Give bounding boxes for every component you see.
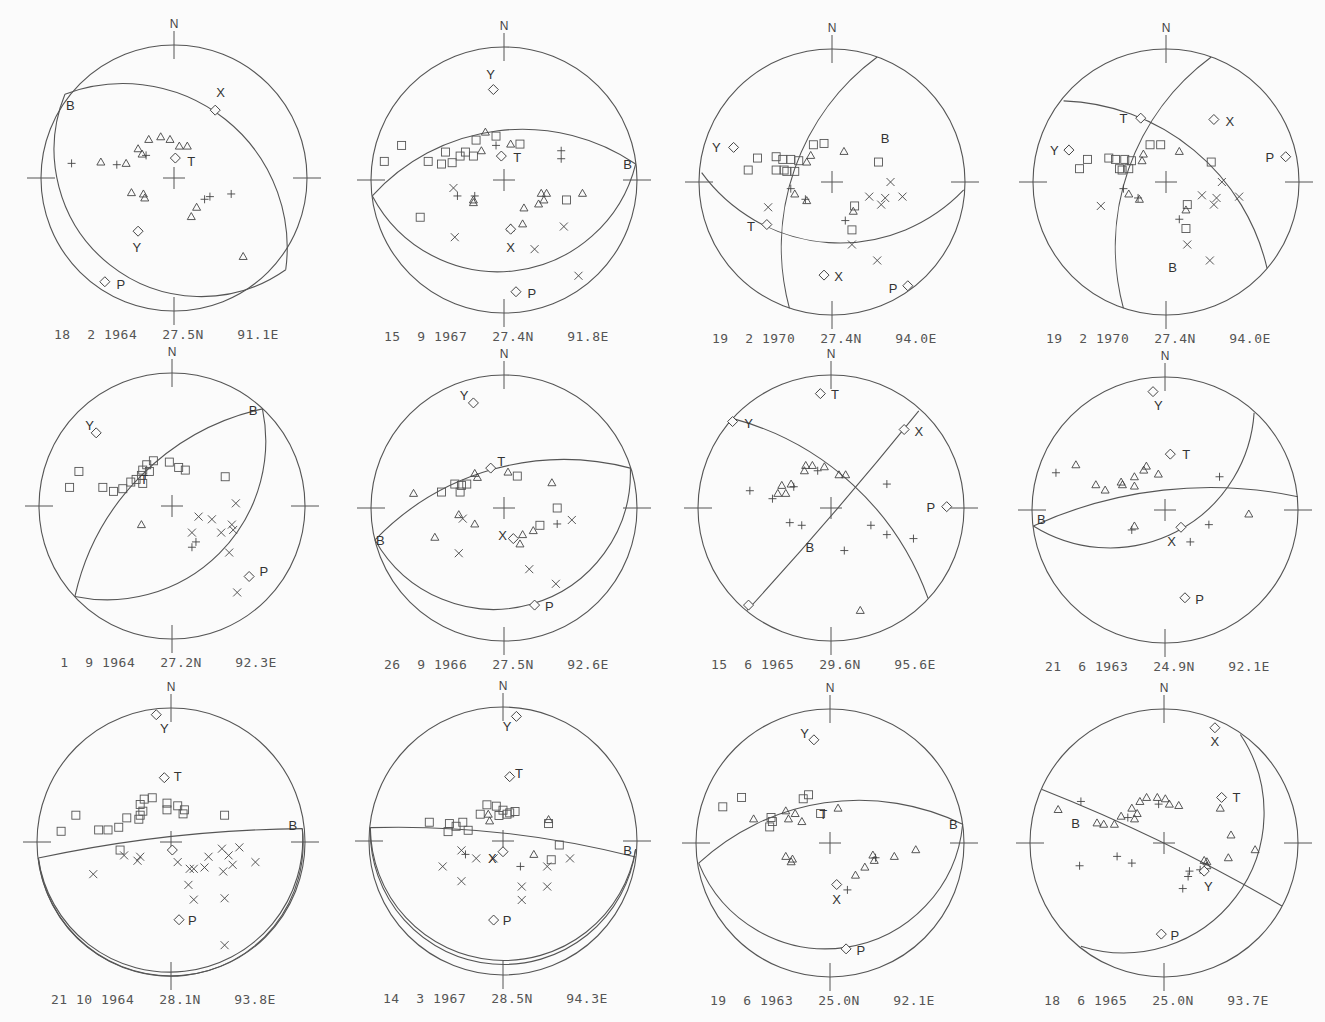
axis-diamond-icon: [819, 270, 829, 280]
dilatation-cross-icon: [235, 843, 243, 851]
event-caption: 18 2 1964 27.5N 91.1E: [54, 327, 279, 342]
axis-label-b: B: [623, 843, 632, 858]
compression-plus-icon: [790, 483, 798, 491]
axis-diamond-icon: [1199, 866, 1209, 876]
compression-triangle-icon: [890, 852, 898, 859]
dilatation-square-icon: [425, 818, 433, 826]
compression-triangle-icon: [778, 481, 786, 488]
axis-label-y: Y: [503, 719, 512, 734]
compression-triangle-icon: [861, 863, 869, 870]
axis-label-b: B: [289, 818, 298, 833]
compression-plus-icon: [867, 521, 875, 529]
compression-triangle-icon: [791, 190, 799, 197]
axis-label-p: P: [188, 913, 197, 928]
axis-diamond-icon: [170, 153, 180, 163]
axis-label-b: B: [949, 817, 958, 832]
axis-diamond-icon: [815, 389, 825, 399]
caption-lat: 27.5N: [137, 327, 204, 342]
stereonet-panel-2: NYTBXP: [357, 19, 651, 327]
axis-label-x: X: [1226, 114, 1235, 129]
caption-month: 6: [728, 657, 753, 672]
axis-label-p: P: [545, 599, 554, 614]
dilatation-square-icon: [75, 467, 83, 475]
axis-diamond-icon: [167, 845, 177, 855]
compression-plus-icon: [557, 155, 565, 163]
compression-triangle-icon: [1093, 819, 1101, 826]
axis-label-t: T: [513, 150, 521, 165]
dilatation-square-icon: [555, 841, 563, 849]
compression-triangle-icon: [530, 850, 538, 857]
axis-label-b: B: [249, 403, 258, 418]
compression-triangle-icon: [145, 135, 153, 142]
caption-day: 21: [51, 992, 68, 1007]
dilatation-square-icon: [1182, 225, 1190, 233]
dilatation-square-icon: [483, 801, 491, 809]
compression-triangle-icon: [97, 158, 105, 165]
compression-triangle-icon: [1118, 481, 1126, 488]
compression-triangle-icon: [193, 203, 201, 210]
compression-triangle-icon: [1130, 482, 1138, 489]
axis-diamond-icon: [1209, 114, 1219, 124]
caption-day: 19: [712, 331, 729, 346]
caption-lon: 94.0E: [1196, 331, 1271, 346]
compression-plus-icon: [1052, 469, 1060, 477]
axis-diamond-icon: [1156, 929, 1166, 939]
axis-label-t: T: [747, 219, 755, 234]
dilatation-cross-icon: [221, 894, 229, 902]
compression-triangle-icon: [1139, 150, 1147, 157]
dilatation-cross-icon: [439, 862, 447, 870]
dilatation-square-icon: [116, 846, 124, 854]
axis-diamond-icon: [1217, 792, 1227, 802]
stereonet-panel-8: NYTBXP: [1018, 349, 1312, 657]
compression-plus-icon: [841, 217, 849, 225]
dilatation-square-icon: [104, 826, 112, 834]
compression-plus-icon: [1184, 873, 1192, 881]
nodal-plane: [699, 800, 963, 863]
axis-diamond-icon: [133, 226, 143, 236]
compression-triangle-icon: [1175, 801, 1183, 808]
north-label: N: [1160, 681, 1169, 695]
stereonet-panel-10: NYTBXP: [355, 679, 651, 989]
compression-plus-icon: [872, 854, 880, 862]
dilatation-square-icon: [744, 166, 752, 174]
compression-triangle-icon: [543, 189, 551, 196]
compression-triangle-icon: [1153, 793, 1161, 800]
compression-triangle-icon: [851, 871, 859, 878]
dilatation-cross-icon: [232, 499, 240, 507]
nodal-plane: [702, 173, 964, 243]
stereonet-panel-12: NXTBYP: [1016, 681, 1312, 991]
dilatation-cross-icon: [449, 184, 457, 192]
compression-plus-icon: [453, 192, 461, 200]
compression-plus-icon: [227, 190, 235, 198]
axis-label-b: B: [805, 540, 814, 555]
dilatation-square-icon: [476, 810, 484, 818]
axis-label-y: Y: [486, 67, 495, 82]
axis-diamond-icon: [942, 502, 952, 512]
dilatation-square-icon: [1084, 155, 1092, 163]
caption-lat: 27.4N: [795, 331, 862, 346]
focal-mechanism-figure: NBXTYPNYTBXPNYBTXPNTXYPBNBYTPNYTBXPNTYXP…: [0, 0, 1325, 1022]
compression-triangle-icon: [787, 858, 795, 865]
axis-diamond-icon: [744, 600, 754, 610]
axis-diamond-icon: [244, 571, 254, 581]
axis-diamond-icon: [488, 85, 498, 95]
dilatation-cross-icon: [190, 865, 198, 873]
compression-triangle-icon: [1227, 831, 1235, 838]
dilatation-square-icon: [448, 159, 456, 167]
dilatation-cross-icon: [221, 941, 229, 949]
dilatation-square-icon: [95, 826, 103, 834]
dilatation-cross-icon: [134, 857, 142, 865]
dilatation-cross-icon: [89, 870, 97, 878]
caption-day: 26: [384, 657, 401, 672]
compression-plus-icon: [68, 159, 76, 167]
axis-label-t: T: [1182, 447, 1190, 462]
stereonet-panel-4: NTXYPB: [1019, 21, 1313, 329]
compression-triangle-icon: [803, 158, 811, 165]
north-label: N: [500, 347, 509, 361]
compression-plus-icon: [768, 495, 776, 503]
compression-triangle-icon: [157, 133, 165, 140]
compression-plus-icon: [843, 886, 851, 894]
event-caption: 26 9 1966 27.5N 92.6E: [384, 657, 609, 672]
dilatation-cross-icon: [518, 896, 526, 904]
event-caption: 15 9 1967 27.4N 91.8E: [384, 329, 609, 344]
